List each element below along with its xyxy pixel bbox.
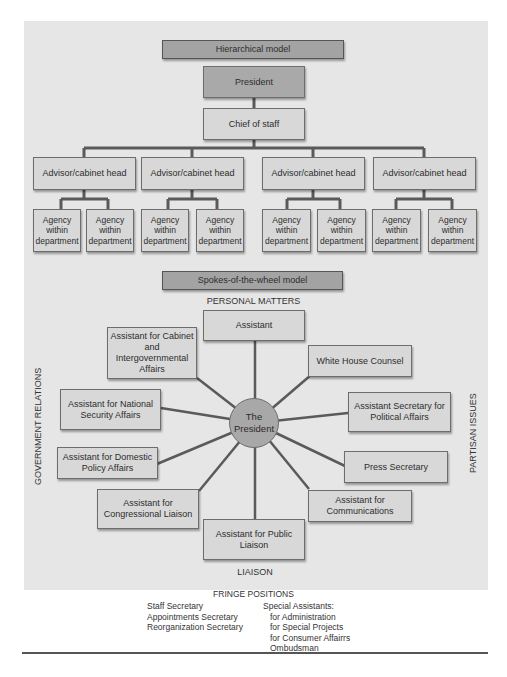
region-label-personal-matters: PERSONAL MATTERS (0, 296, 507, 306)
node-asst-sec-political: Assistant Secretary for Political Affair… (348, 392, 451, 432)
node-assistant: Assistant (203, 310, 305, 341)
fringe-item: for Administration (263, 612, 350, 623)
bottom-divider (22, 652, 488, 654)
node-asst-cabinet: Assistant for Cabinet and Intergovernmen… (107, 327, 197, 379)
chief-of-staff-box: Chief of staff (203, 108, 305, 140)
node-asst-communications: Assistant for Communications (308, 490, 412, 522)
advisor-box: Advisor/cabinet head (373, 157, 476, 190)
agency-box: Agency within department (317, 209, 366, 252)
fringe-positions-title: FRINGE POSITIONS (0, 589, 507, 599)
node-press-secretary: Press Secretary (344, 451, 448, 483)
agency-box: Agency within department (372, 209, 421, 252)
node-asst-domestic-policy: Assistant for Domestic Policy Affairs (57, 447, 158, 479)
region-label-liaison: LIAISON (0, 567, 507, 577)
president-hub: The President (229, 398, 279, 448)
fringe-item: Appointments Secretary (147, 612, 243, 623)
fringe-item: for Special Projects (263, 622, 350, 633)
fringe-item: Reorganization Secretary (147, 622, 243, 633)
region-label-partisan-issues: PARTISAN ISSUES (468, 393, 478, 473)
node-asst-public-liaison: Assistant for Public Liaison (203, 519, 305, 560)
advisor-box: Advisor/cabinet head (141, 157, 244, 190)
spokes-model-title: Spokes-of-the-wheel model (162, 271, 343, 290)
node-white-house-counsel: White House Counsel (308, 345, 412, 377)
fringe-left-column: Staff Secretary Appointments Secretary R… (147, 601, 243, 633)
fringe-item: Special Assistants: (263, 601, 350, 612)
hierarchical-model-title: Hierarchical model (162, 40, 344, 59)
agency-box: Agency within department (262, 209, 311, 252)
node-asst-national-security: Assistant for National Security Affairs (60, 389, 161, 430)
node-asst-congressional: Assistant for Congressional Liaison (97, 489, 199, 529)
president-box: President (203, 66, 305, 98)
advisor-box: Advisor/cabinet head (262, 157, 365, 190)
agency-box: Agency within department (33, 209, 81, 252)
agency-box: Agency within department (196, 209, 244, 252)
agency-box: Agency within department (428, 209, 477, 252)
agency-box: Agency within department (86, 209, 134, 252)
agency-box: Agency within department (141, 209, 189, 252)
fringe-item: for Consumer Affairrs (263, 633, 350, 644)
fringe-item: Staff Secretary (147, 601, 243, 612)
advisor-box: Advisor/cabinet head (33, 157, 136, 190)
fringe-right-column: Special Assistants: for Administration f… (263, 601, 350, 654)
region-label-government-relations: GOVERNMENT RELATIONS (33, 368, 43, 485)
